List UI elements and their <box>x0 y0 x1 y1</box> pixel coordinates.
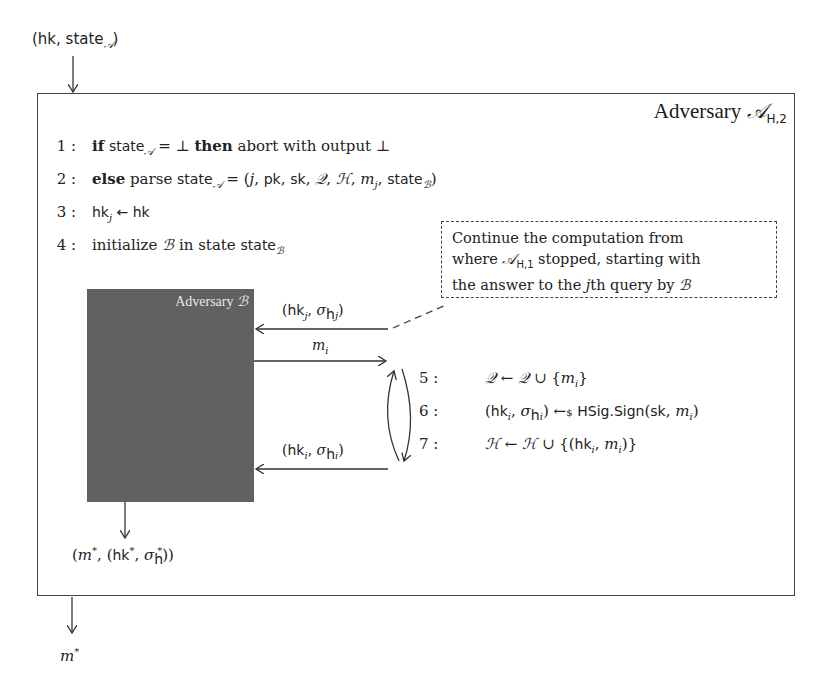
final-output-label: m* <box>60 646 79 665</box>
message-response-j: (hkj, σhj) <box>282 302 343 322</box>
b-output-label: (m*, (hk*, σh*)) <box>72 545 174 567</box>
algo-line-3: 3 :hkj ← hk <box>36 203 150 223</box>
message-query: mi <box>312 337 328 356</box>
note-line-2: where 𝒜H,1 stopped, starting with <box>452 249 766 275</box>
note-line-3: the answer to the jth query by ℬ <box>452 275 766 296</box>
loop-line-6: 6 :(hki, σhi) ←$ HSig.Sign(sk, mi) <box>419 402 699 423</box>
adversary-b-box: Adversary ℬ <box>87 289 254 502</box>
algo-line-4: 4 :initialize ℬ in state stateℬ <box>36 236 284 256</box>
input-label-sub: 𝒜 <box>104 39 113 50</box>
note-line-1: Continue the computation from <box>452 228 766 249</box>
message-response-i: (hki, σhi) <box>282 442 344 462</box>
loop-line-7: 7 :ℋ ← ℋ ∪ {(hki, mi)} <box>419 435 637 455</box>
adversary-a-h2-title: Adversary 𝒜H,2 <box>654 99 787 126</box>
loop-line-5: 5 :𝒬 ← 𝒬 ∪ {mi} <box>419 369 588 389</box>
adversary-b-title: Adversary ℬ <box>175 293 248 310</box>
algo-line-2: 2 :else parse state𝒜 = (j, pk, sk, 𝒬, ℋ,… <box>36 170 437 191</box>
input-label: ( ← hkhk, state𝒜) <box>32 30 118 51</box>
algo-line-1: 1 :if state𝒜 = ⊥ then abort with output … <box>36 137 390 158</box>
continuation-note: Continue the computation from where 𝒜H,1… <box>441 221 777 298</box>
